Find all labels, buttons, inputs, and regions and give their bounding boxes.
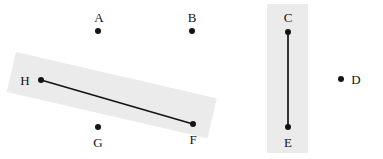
vertex-point-g <box>95 124 101 130</box>
vertex-label-b: B <box>188 11 197 24</box>
vertex-label-g: G <box>93 136 102 149</box>
vertex-label-d: D <box>351 73 360 86</box>
vertex-point-d <box>338 76 344 82</box>
vertex-point-f <box>190 121 196 127</box>
vertex-point-a <box>95 28 101 34</box>
vertex-label-c: C <box>284 11 293 24</box>
vertex-point-b <box>189 28 195 34</box>
vertex-point-c <box>285 29 291 35</box>
vertex-label-h: H <box>20 74 29 87</box>
vertex-label-f: F <box>189 133 196 146</box>
vertex-point-e <box>285 124 291 130</box>
edge-h-f <box>41 80 193 124</box>
vertex-point-h <box>38 77 44 83</box>
geometry-diagram-canvas: ABCDEFGH <box>0 0 383 159</box>
vertex-label-e: E <box>284 136 292 149</box>
vertex-label-a: A <box>94 11 103 24</box>
